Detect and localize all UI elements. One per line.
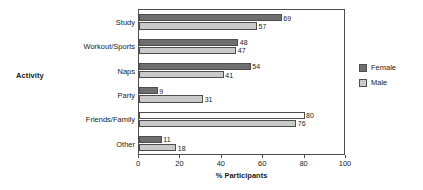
bar-row-female: 9 — [139, 87, 344, 94]
bar-row-male: 41 — [139, 71, 344, 78]
bar-value-label: 76 — [296, 120, 305, 127]
bar-row-male: 18 — [139, 144, 344, 151]
bar-male — [139, 71, 224, 78]
bar-female — [139, 63, 251, 70]
bar-value-label: 41 — [224, 71, 233, 78]
category-group: Study6957 — [139, 10, 344, 34]
category-label: Friends/Family — [86, 115, 135, 124]
legend-swatch-icon — [359, 79, 367, 87]
category-group: Friends/Family8076 — [139, 107, 344, 131]
category-group: Workout/Sports4847 — [139, 34, 344, 58]
category-group: Party931 — [139, 83, 344, 107]
bar-value-label: 80 — [305, 112, 314, 119]
bar-chart: Activity Study6957Workout/Sports4847Naps… — [0, 0, 423, 190]
x-tick-mark — [262, 155, 263, 158]
x-tick-mark — [345, 155, 346, 158]
bar-female — [139, 14, 282, 21]
bar-row-male: 76 — [139, 120, 344, 127]
x-tick-label: 60 — [258, 159, 266, 168]
bar-row-female: 48 — [139, 39, 344, 46]
x-axis-title: % Participants — [138, 171, 345, 180]
bar-male — [139, 144, 176, 151]
bar-value-label: 11 — [162, 136, 171, 143]
x-axis-ticks: 020406080100 — [138, 155, 345, 169]
category-group: Other1118 — [139, 132, 344, 156]
bar-female — [139, 136, 162, 143]
y-axis-title: Activity — [16, 71, 76, 80]
legend-entry-female[interactable]: Female — [359, 63, 396, 72]
bar-value-label: 48 — [238, 39, 247, 46]
bar-value-label: 47 — [236, 47, 245, 54]
bar-value-label: 18 — [176, 144, 185, 151]
bar-female — [139, 39, 238, 46]
bar-male — [139, 120, 296, 127]
bar-row-male: 57 — [139, 22, 344, 29]
category-label: Other — [116, 139, 135, 148]
category-label: Workout/Sports — [83, 42, 135, 51]
x-tick-label: 0 — [136, 159, 140, 168]
bar-value-label: 54 — [251, 63, 260, 70]
bar-row-male: 31 — [139, 95, 344, 102]
bar-row-female: 54 — [139, 63, 344, 70]
plot-area: Study6957Workout/Sports4847Naps5441Party… — [138, 9, 345, 155]
x-tick-label: 20 — [175, 159, 183, 168]
x-tick-label: 80 — [299, 159, 307, 168]
category-label: Naps — [117, 66, 135, 75]
bar-value-label: 31 — [203, 95, 212, 102]
x-tick-mark — [138, 155, 139, 158]
bar-row-female: 11 — [139, 136, 344, 143]
category-label: Study — [116, 18, 135, 27]
x-tick-mark — [304, 155, 305, 158]
x-tick-label: 40 — [217, 159, 225, 168]
bar-male — [139, 47, 236, 54]
x-tick-label: 100 — [339, 159, 352, 168]
category-group: Naps5441 — [139, 59, 344, 83]
legend-swatch-icon — [359, 64, 367, 72]
bar-value-label: 69 — [282, 14, 291, 21]
bar-male — [139, 22, 257, 29]
bar-value-label: 57 — [257, 22, 266, 29]
x-tick-mark — [221, 155, 222, 158]
legend-label: Male — [371, 78, 387, 87]
bar-value-label: 9 — [158, 87, 163, 94]
chart-legend: FemaleMale — [359, 63, 396, 93]
x-tick-mark — [179, 155, 180, 158]
category-label: Party — [117, 91, 135, 100]
bar-male — [139, 95, 203, 102]
legend-label: Female — [371, 63, 396, 72]
bar-row-female: 80 — [139, 112, 344, 119]
bar-row-female: 69 — [139, 14, 344, 21]
bar-female — [139, 87, 158, 94]
bar-row-male: 47 — [139, 47, 344, 54]
legend-entry-male[interactable]: Male — [359, 78, 396, 87]
bar-female — [139, 112, 305, 119]
